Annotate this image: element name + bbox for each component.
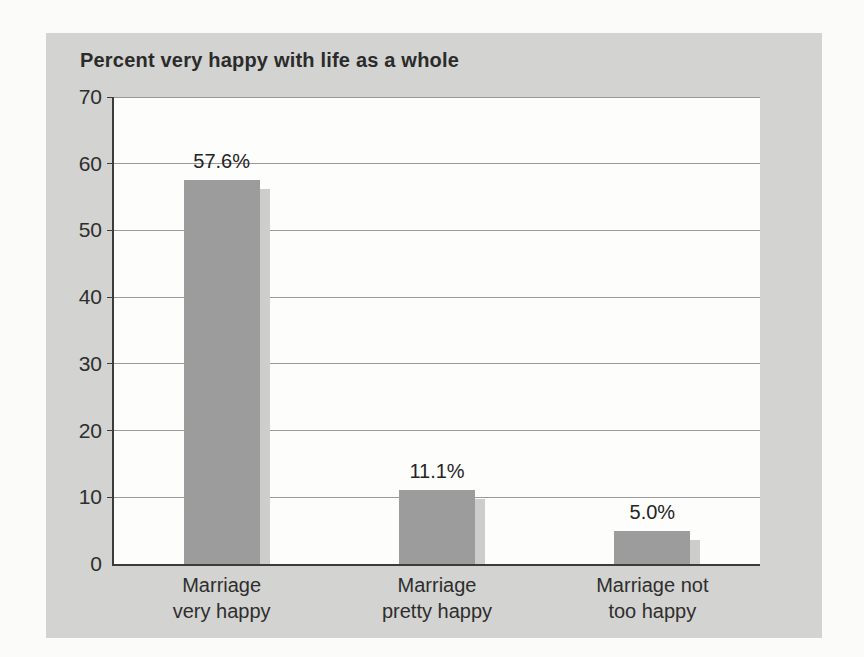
bar-3 [614, 531, 690, 564]
y-tick-mark-70 [107, 97, 112, 98]
category-label-1: Marriagevery happy [173, 572, 271, 624]
y-tick-mark-30 [107, 363, 112, 364]
chart-title: Percent very happy with life as a whole [80, 49, 459, 72]
category-label-line2: pretty happy [382, 598, 492, 624]
y-tick-label-0: 0 [90, 552, 102, 576]
y-tick-label-30: 30 [79, 352, 102, 376]
y-tick-mark-50 [107, 230, 112, 231]
y-tick-mark-40 [107, 297, 112, 298]
category-label-line2: very happy [173, 598, 271, 624]
y-tick-label-40: 40 [79, 285, 102, 309]
bar-2 [399, 490, 475, 564]
value-label-3: 5.0% [630, 501, 676, 524]
y-tick-mark-60 [107, 163, 112, 164]
value-label-1: 57.6% [193, 150, 250, 173]
y-tick-label-10: 10 [79, 485, 102, 509]
category-label-2: Marriagepretty happy [382, 572, 492, 624]
category-label-line1: Marriage not [596, 572, 708, 598]
plot-area: 010203040506070 57.6%11.1%5.0% Marriagev… [112, 97, 760, 566]
gridline-70 [114, 97, 760, 98]
category-label-line1: Marriage [382, 572, 492, 598]
category-label-line1: Marriage [173, 572, 271, 598]
category-label-line2: too happy [596, 598, 708, 624]
y-tick-label-20: 20 [79, 419, 102, 443]
y-tick-label-70: 70 [79, 85, 102, 109]
y-tick-label-50: 50 [79, 218, 102, 242]
value-label-2: 11.1% [409, 460, 464, 483]
y-tick-label-60: 60 [79, 152, 102, 176]
category-label-3: Marriage nottoo happy [596, 572, 708, 624]
y-tick-mark-20 [107, 430, 112, 431]
bar-1 [184, 180, 260, 564]
chart-panel: Percent very happy with life as a whole … [46, 33, 822, 638]
y-tick-mark-10 [107, 497, 112, 498]
